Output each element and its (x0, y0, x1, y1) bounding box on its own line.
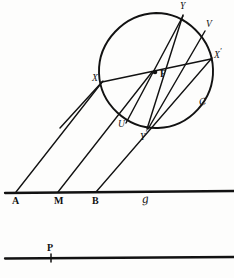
label-point-x: X (92, 74, 98, 84)
label-point-y: Y (180, 2, 185, 12)
secant-extension-left (60, 82, 102, 128)
baseline-g (5, 191, 234, 193)
lower-line (5, 257, 234, 259)
label-point-x-prime: X′ (214, 48, 222, 61)
label-line-g: g (141, 193, 149, 205)
point-f-dot (153, 70, 158, 75)
label-point-f: F (160, 69, 166, 79)
label-point-p: P (47, 243, 53, 253)
label-point-b: B (92, 196, 99, 206)
geometry-figure: Y V X′ F X U Y′ C A M B g P (0, 0, 234, 278)
ray-b-to-yprime (96, 58, 212, 192)
parallel-ray-group (16, 58, 212, 192)
label-point-v: V (206, 20, 212, 30)
ray-m-to-u (58, 72, 152, 192)
ray-a-to-x (16, 81, 103, 192)
label-point-m: M (54, 196, 63, 206)
secant-extension-group (60, 82, 102, 128)
figure-canvas (0, 0, 234, 278)
label-point-u: U (118, 120, 125, 130)
label-point-y-prime: Y′ (140, 130, 147, 143)
label-point-a: A (12, 196, 19, 206)
chord-v-f (148, 31, 205, 129)
